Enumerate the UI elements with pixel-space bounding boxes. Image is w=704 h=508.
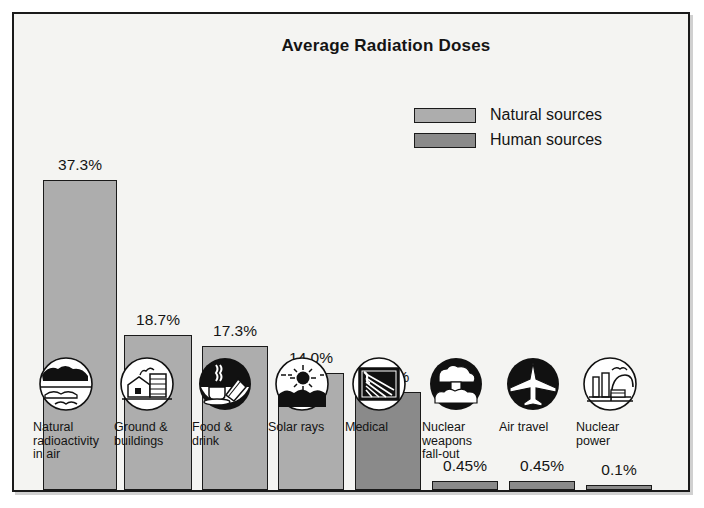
legend-label-natural: Natural sources: [490, 106, 602, 124]
bar-value-label: 0.1%: [601, 461, 636, 479]
category-label-line: Natural: [33, 421, 119, 435]
category-label-line: fall-out: [422, 448, 508, 462]
category-label-ground-buildings: Ground & buildings: [114, 421, 200, 448]
bar-group-nuclear-power[interactable]: 0.1%: [586, 485, 652, 490]
category-label-line: Air travel: [499, 421, 585, 435]
category-label-food-drink: Food & drink: [192, 421, 278, 448]
category-label-line: Nuclear: [576, 421, 662, 435]
xray-screen-icon: [352, 357, 406, 411]
category-label-line: buildings: [114, 435, 200, 449]
bar-group-nuclear-weapons-fallout[interactable]: 0.45%: [432, 481, 498, 490]
category-label-line: Medical: [345, 421, 431, 435]
category-label-line: in air: [33, 448, 119, 462]
category-label-line: weapons: [422, 435, 508, 449]
category-label-solar-rays: Solar rays: [268, 421, 354, 435]
legend-label-human: Human sources: [490, 131, 602, 149]
bar-value-label: 0.45%: [520, 457, 564, 475]
category-label-line: Food &: [192, 421, 278, 435]
bar-rect[interactable]: [586, 485, 652, 490]
bar-rect[interactable]: [432, 481, 498, 490]
category-label-line: drink: [192, 435, 278, 449]
category-label-line: power: [576, 435, 662, 449]
chart-legend: Natural sources Human sources: [414, 106, 674, 156]
airplane-icon: [506, 357, 560, 411]
category-label-nuclear-power: Nuclear power: [576, 421, 662, 448]
legend-swatch-natural-icon: [414, 108, 476, 123]
bar-value-label: 18.7%: [136, 311, 180, 329]
category-label-line: radioactivity: [33, 435, 119, 449]
category-label-line: Solar rays: [268, 421, 354, 435]
house-building-icon: [120, 357, 174, 411]
legend-swatch-human-icon: [414, 133, 476, 148]
legend-item-natural: Natural sources: [414, 106, 674, 124]
legend-item-human: Human sources: [414, 131, 674, 149]
plot-area: Average Radiation Doses Natural sources …: [14, 14, 688, 490]
cup-sandwich-icon: [198, 357, 252, 411]
bar-value-label: 37.3%: [58, 156, 102, 174]
category-label-natural-radioactivity: Natural radioactivity in air: [33, 421, 119, 462]
category-label-line: Ground &: [114, 421, 200, 435]
category-label-line: Nuclear: [422, 421, 508, 435]
category-label-air-travel: Air travel: [499, 421, 585, 435]
bar-group-air-travel[interactable]: 0.45%: [509, 481, 575, 490]
power-plant-icon: [583, 357, 637, 411]
clouds-landscape-icon: [39, 357, 93, 411]
chart-title: Average Radiation Doses: [14, 36, 688, 56]
category-label-medical: Medical: [345, 421, 431, 435]
sun-rays-icon: [275, 357, 329, 411]
category-label-nuclear-weapons-fallout: Nuclear weapons fall-out: [422, 421, 508, 462]
bar-rect[interactable]: [509, 481, 575, 490]
mushroom-cloud-icon: [429, 357, 483, 411]
bar-value-label: 17.3%: [213, 322, 257, 340]
